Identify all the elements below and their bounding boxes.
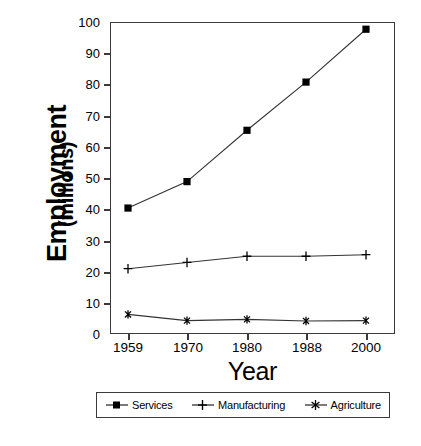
x-tick-label-1970: 1970 [158, 340, 218, 355]
x-axis-title: Year [110, 357, 395, 386]
legend-label-manufacturing: Manufacturing [218, 399, 285, 411]
legend-item-services[interactable]: Services [105, 399, 173, 411]
datapoint-services-1959 [124, 204, 131, 211]
x-tick-label-1980: 1980 [217, 340, 277, 355]
y-tick-label-20: 20 [60, 266, 100, 279]
x-tick-label-2000: 2000 [336, 340, 396, 355]
series-layer [124, 26, 371, 326]
y-tick-label-40: 40 [60, 203, 100, 216]
asterisk-marker-icon [304, 399, 328, 411]
datapoint-manufacturing-1970 [183, 258, 192, 268]
datapoint-services-2000 [362, 26, 369, 33]
datapoint-services-1980 [243, 127, 250, 134]
y-tick-label-30: 30 [60, 235, 100, 248]
y-tick-label-0: 0 [60, 328, 100, 341]
y-tick-label-70: 70 [60, 110, 100, 123]
legend-label-services: Services [132, 399, 173, 411]
employment-line-chart-figure: Employment (millions) 100 90 80 70 60 50… [0, 0, 421, 446]
x-tick-label-1959: 1959 [98, 340, 158, 355]
series-manufacturing [124, 250, 371, 274]
plus-marker-icon [191, 399, 215, 411]
plot-series-canvas [110, 22, 395, 334]
datapoint-services-1970 [183, 178, 190, 185]
series-agriculture [125, 310, 369, 325]
datapoint-manufacturing-2000 [362, 250, 371, 260]
series-services [124, 26, 369, 212]
datapoint-manufacturing-1980 [243, 251, 252, 261]
legend-item-manufacturing[interactable]: Manufacturing [191, 399, 285, 411]
filled-square-marker-icon [105, 399, 129, 411]
datapoint-manufacturing-1959 [124, 264, 133, 274]
legend-label-agriculture: Agriculture [331, 399, 381, 411]
y-tick-label-90: 90 [60, 47, 100, 60]
y-axis-title-group: Employment (millions) [10, 60, 94, 330]
datapoint-manufacturing-1988 [302, 251, 311, 261]
y-tick-label-50: 50 [60, 172, 100, 185]
datapoint-services-1988 [302, 78, 309, 85]
y-tick-label-80: 80 [60, 78, 100, 91]
y-tick-label-100: 100 [60, 16, 100, 29]
series-line-services [128, 29, 366, 208]
y-tick-label-60: 60 [60, 141, 100, 154]
y-tick-label-10: 10 [60, 297, 100, 310]
x-tick-label-1988: 1988 [277, 340, 337, 355]
legend-item-agriculture[interactable]: Agriculture [304, 399, 381, 411]
chart-legend: Services Manufacturing Agriculture [96, 392, 390, 418]
